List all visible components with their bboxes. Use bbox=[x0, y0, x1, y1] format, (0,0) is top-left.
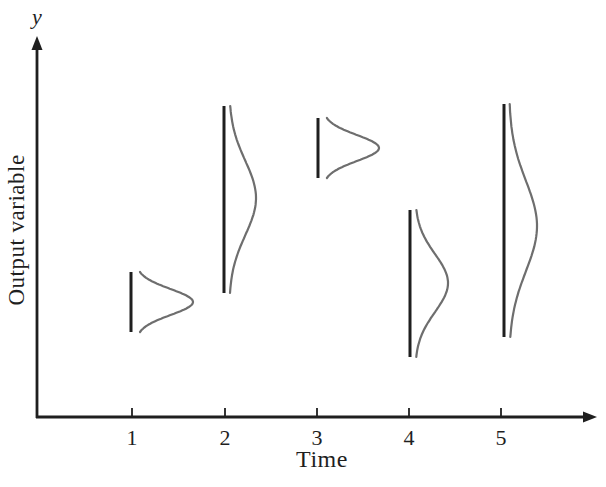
density-curve bbox=[327, 118, 379, 178]
x-tick-label: 4 bbox=[404, 425, 415, 451]
x-axis-arrowhead-icon bbox=[583, 412, 597, 423]
x-tick-label: 1 bbox=[127, 425, 138, 451]
distributions-over-time-figure: y Output variable Time 12345 bbox=[0, 0, 606, 487]
y-axis-arrowhead-icon bbox=[32, 36, 43, 50]
y-axis-title: Output variable bbox=[4, 154, 30, 305]
density-curve bbox=[416, 210, 448, 357]
plot-svg bbox=[0, 0, 606, 487]
density-curve bbox=[230, 106, 256, 293]
density-curve bbox=[510, 104, 537, 337]
y-axis-symbol: y bbox=[32, 4, 42, 30]
density-curve bbox=[140, 272, 193, 332]
x-tick-label: 3 bbox=[312, 425, 323, 451]
x-tick-label: 2 bbox=[220, 425, 231, 451]
x-tick-label: 5 bbox=[496, 425, 507, 451]
